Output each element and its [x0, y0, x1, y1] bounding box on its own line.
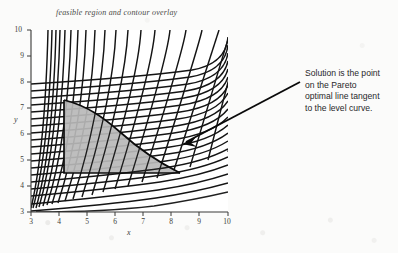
- annotation-text: Solution is the point on the Pareto opti…: [305, 68, 397, 115]
- annotation-line-2: on the Pareto: [305, 80, 397, 92]
- y-tick-label-7: 7: [10, 103, 24, 112]
- y-tick-label-9: 9: [10, 51, 24, 60]
- x-tick-label-5: 5: [80, 217, 94, 226]
- annotation-line-3: optimal line tangent: [305, 91, 397, 103]
- x-axis-label: x: [127, 228, 131, 237]
- x-tick-label-9: 9: [192, 217, 206, 226]
- y-tick-label-3: 3: [10, 207, 24, 216]
- y-axis-label: y: [14, 115, 18, 124]
- y-axis-ticks: [27, 30, 31, 212]
- x-tick-label-4: 4: [52, 217, 66, 226]
- annotation-line-1: Solution is the point: [305, 68, 397, 80]
- x-tick-label-7: 7: [136, 217, 150, 226]
- y-tick-label-5: 5: [10, 155, 24, 164]
- y-tick-label-8: 8: [10, 77, 24, 86]
- annotation-line-4: to the level curve.: [305, 103, 397, 115]
- y-tick-label-10: 10: [8, 25, 22, 34]
- x-tick-label-3: 3: [24, 217, 38, 226]
- x-tick-label-8: 8: [164, 217, 178, 226]
- x-axis-ticks: [31, 212, 228, 216]
- x-tick-label-6: 6: [108, 217, 122, 226]
- contour-plot-svg: [0, 0, 398, 253]
- figure-page: feasible region and contour overlay: [0, 0, 398, 253]
- y-tick-label-4: 4: [10, 181, 24, 190]
- y-tick-label-6: 6: [10, 129, 24, 138]
- x-tick-label-10: 10: [220, 217, 234, 226]
